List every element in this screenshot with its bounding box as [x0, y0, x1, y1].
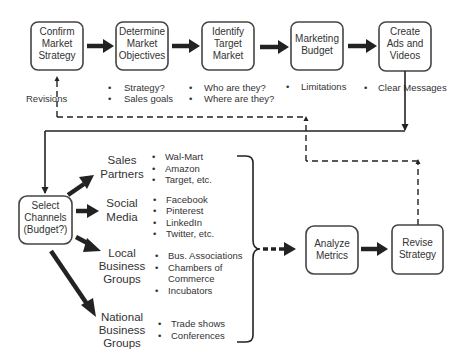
svg-text:•: •: [153, 205, 156, 216]
dashed-revise-feedback: [306, 119, 421, 225]
svg-text:Bus. Associations: Bus. Associations: [168, 250, 243, 261]
svg-text:Commerce: Commerce: [168, 273, 214, 284]
arrow-target-to-budget: [260, 40, 289, 54]
svg-text:•: •: [189, 93, 192, 104]
svg-text:•: •: [158, 318, 161, 329]
svg-text:Wal-Mart: Wal-Mart: [165, 151, 204, 162]
svg-text:Clear Messages: Clear Messages: [378, 82, 447, 93]
svg-text:Sales goals: Sales goals: [124, 93, 173, 104]
box-create-ads-and-videos: Create Ads and Videos: [379, 22, 431, 71]
svg-text:Create: Create: [390, 26, 420, 37]
arrow-analyze-to-revise: [361, 242, 388, 256]
svg-text:•: •: [153, 194, 156, 205]
arrow-to-local-business-grops: [76, 237, 101, 252]
notes-budget: • Limitations: [286, 81, 347, 92]
svg-text:Confirm: Confirm: [39, 26, 74, 37]
svg-text:Determine: Determine: [119, 26, 166, 37]
svg-text:Local: Local: [108, 247, 136, 259]
svg-text:•: •: [155, 285, 158, 296]
svg-text:Select: Select: [32, 200, 60, 211]
svg-text:Business: Business: [99, 260, 146, 272]
svg-text:•: •: [155, 250, 158, 261]
marketing-process-diagram: Confirm Market Strategy Determine Market…: [0, 0, 465, 363]
box-revise-strategy: Revise Strategy: [392, 225, 443, 274]
svg-text:Ads and: Ads and: [387, 38, 424, 49]
arrow-confirm-to-objectives: [87, 39, 114, 53]
box-determine-market-objectives: Determine Market Objectives: [116, 22, 168, 70]
channel-local-business-groups: Local Business Groups • Bus. Association…: [99, 247, 243, 296]
svg-text:Budget: Budget: [301, 45, 333, 56]
svg-text:Target, etc.: Target, etc.: [165, 174, 212, 185]
svg-text:•: •: [152, 174, 155, 185]
svg-text:Metrics: Metrics: [316, 250, 348, 261]
svg-text:•: •: [108, 93, 111, 104]
svg-text:Marketing: Marketing: [295, 33, 339, 44]
svg-text:LinkedIn: LinkedIn: [166, 217, 202, 228]
svg-text:•: •: [364, 82, 367, 93]
svg-text:Twitter, etc.: Twitter, etc.: [166, 228, 214, 239]
box-confirm-market-strategy: Confirm Market Strategy: [31, 22, 83, 70]
box-marketing-budget: Marketing Budget: [291, 22, 343, 70]
dashed-arrow-to-analyze: [263, 242, 296, 256]
svg-text:Market: Market: [127, 38, 158, 49]
svg-text:Revisions: Revisions: [26, 93, 67, 104]
svg-text:•: •: [155, 262, 158, 273]
dashed-revision-loop-top: [57, 116, 309, 121]
arrow-to-sales-partners: [68, 175, 94, 195]
svg-text:(Budget?): (Budget?): [24, 224, 68, 235]
arrow-budget-to-ads: [348, 39, 377, 53]
svg-text:Social: Social: [106, 197, 137, 209]
notes-objectives: • Strategy? • Sales goals: [108, 82, 173, 104]
channels-brace: [237, 156, 260, 342]
svg-text:•: •: [189, 82, 192, 93]
arrow-to-national-business-groups: [51, 251, 96, 317]
svg-text:Market: Market: [213, 50, 244, 61]
svg-text:Target: Target: [214, 38, 242, 49]
svg-text:National: National: [101, 311, 143, 323]
svg-text:Identify: Identify: [212, 26, 244, 37]
svg-text:Who are they?: Who are they?: [204, 82, 266, 93]
svg-text:Market: Market: [42, 38, 73, 49]
svg-text:Channels: Channels: [24, 212, 66, 223]
svg-text:•: •: [153, 228, 156, 239]
channel-national-business-groups: National Business Groups • Trade shows •…: [99, 311, 226, 349]
box-identify-target-market: Identify Target Market: [202, 22, 254, 70]
svg-text:•: •: [153, 217, 156, 228]
svg-text:Groups: Groups: [103, 337, 141, 349]
svg-text:•: •: [286, 81, 289, 92]
svg-text:•: •: [152, 163, 155, 174]
box-analyze-metrics: Analyze Metrics: [306, 226, 358, 274]
svg-text:Facebook: Facebook: [166, 194, 208, 205]
box-select-channels: Select Channels (Budget?): [19, 196, 72, 244]
svg-text:Trade shows: Trade shows: [171, 318, 225, 329]
channel-sales-partners: Sales Partners • Wal-Mart • Amazon • Tar…: [100, 151, 212, 185]
svg-text:Pinterest: Pinterest: [166, 205, 204, 216]
svg-text:Analyze: Analyze: [314, 238, 350, 249]
svg-text:•: •: [158, 330, 161, 341]
channel-social-media: Social Media • Facebook • Pinterest • Li…: [106, 194, 214, 239]
svg-text:Amazon: Amazon: [165, 163, 200, 174]
svg-text:Sales: Sales: [108, 154, 137, 166]
svg-text:Business: Business: [99, 324, 146, 336]
svg-text:Chambers of: Chambers of: [168, 262, 223, 273]
svg-text:Revise: Revise: [402, 237, 433, 248]
svg-text:Partners: Partners: [100, 168, 144, 180]
notes-target: • Who are they? • Where are they?: [189, 82, 274, 104]
svg-text:Limitations: Limitations: [301, 81, 347, 92]
svg-text:Where are they?: Where are they?: [204, 93, 274, 104]
arrow-to-social-media: [76, 204, 99, 218]
svg-text:Groups: Groups: [103, 273, 141, 285]
svg-text:Media: Media: [106, 211, 138, 223]
svg-text:Objectives: Objectives: [119, 50, 166, 61]
arrow-objectives-to-target: [172, 39, 200, 53]
svg-text:•: •: [152, 151, 155, 162]
svg-text:Incubators: Incubators: [168, 285, 213, 296]
svg-text:Videos: Videos: [390, 50, 420, 61]
svg-text:Strategy: Strategy: [399, 249, 436, 260]
note-revisions: Revisions: [26, 93, 67, 104]
svg-text:Conferences: Conferences: [171, 330, 225, 341]
svg-text:Strategy: Strategy: [38, 50, 75, 61]
svg-text:Strategy?: Strategy?: [124, 82, 165, 93]
svg-text:•: •: [108, 82, 111, 93]
